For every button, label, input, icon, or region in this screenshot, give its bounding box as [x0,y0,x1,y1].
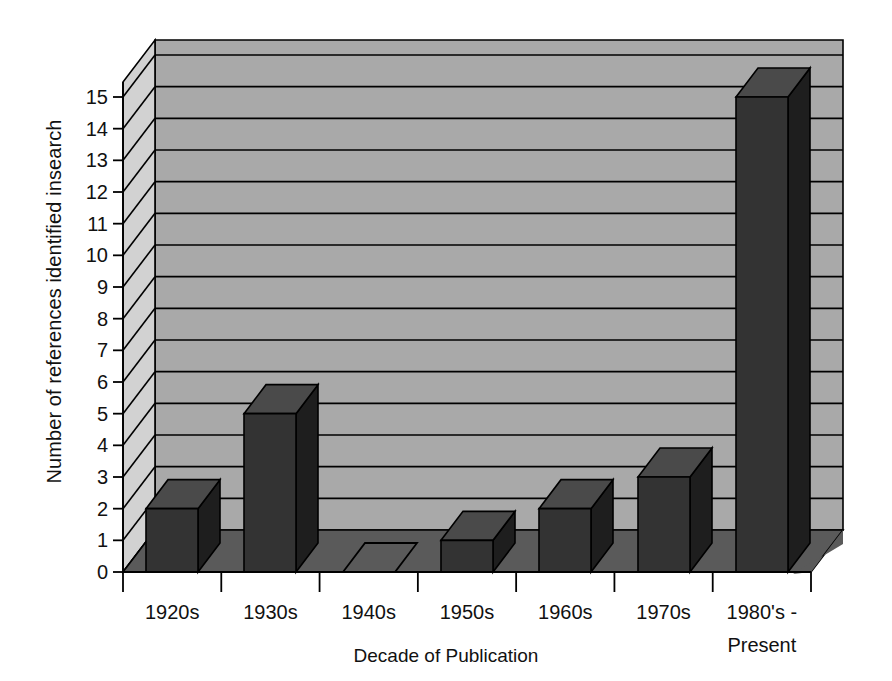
bar-chart: Number of references identified insearch… [0,0,892,681]
bar-1960s [539,480,613,572]
bar-front-face [736,97,788,572]
bar-side-face [296,385,318,572]
bar-1980-s-present [736,68,810,572]
plot-area [0,0,892,681]
left-side-wall [123,40,155,572]
bar-front-face [441,540,493,572]
bar-1930s [244,385,318,572]
bar-front-face [539,509,591,572]
bar-front-face [146,509,198,572]
bar-front-face [638,477,690,572]
bar-1920s [146,480,220,572]
bar-1970s [638,448,712,572]
bar-front-face [244,414,296,572]
bar-side-face [788,68,810,572]
